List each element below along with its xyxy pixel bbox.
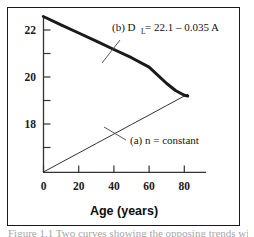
x-axis-title: Age (years) bbox=[90, 204, 158, 218]
x-tick-label-20: 20 bbox=[73, 180, 85, 192]
annotation-a: (a) n = constant bbox=[130, 134, 199, 147]
annotation-b: (b) D L = 22.1 – 0.035 A bbox=[112, 21, 219, 36]
caption-fragment: Figure 1.1 Two curves showing the opposi… bbox=[8, 228, 248, 237]
chart-canvas: 22 20 18 0 20 40 60 80 (b) D L = 22.1 – … bbox=[0, 0, 254, 237]
y-tick-label-18: 18 bbox=[25, 118, 37, 130]
y-tick-label-20: 20 bbox=[25, 71, 37, 83]
annotation-a-label: (a) n = constant bbox=[130, 134, 199, 147]
x-axis-ticks bbox=[44, 166, 185, 173]
annotation-b-equation: = 22.1 – 0.035 A bbox=[145, 21, 219, 33]
x-tick-label-80: 80 bbox=[179, 180, 191, 192]
x-tick-label-40: 40 bbox=[108, 180, 120, 192]
x-tick-label-0: 0 bbox=[41, 180, 47, 192]
y-axis-ticks bbox=[44, 30, 51, 148]
x-tick-label-60: 60 bbox=[143, 180, 155, 192]
figure-root: 22 20 18 0 20 40 60 80 (b) D L = 22.1 – … bbox=[0, 0, 254, 237]
y-tick-label-22: 22 bbox=[25, 24, 37, 36]
annotation-b-prefix: (b) D bbox=[112, 21, 136, 34]
